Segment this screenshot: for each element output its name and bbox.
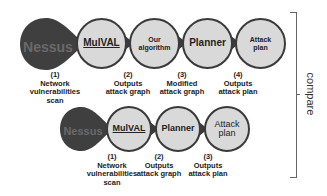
node-label-line: plan	[214, 129, 239, 138]
node-our-algorithm: Our algorithm	[129, 18, 180, 69]
node-planner: Planner	[182, 18, 233, 69]
svg-text:Nessus: Nessus	[63, 125, 102, 137]
caption-step-2: (2) Outputs attack graph	[98, 71, 158, 97]
caption-line: attack plan	[178, 170, 238, 179]
compare-bracket	[290, 12, 297, 178]
node-mulval: MulVAL	[106, 106, 152, 152]
compare-label: compare	[305, 69, 317, 119]
svg-text:Nessus: Nessus	[23, 39, 73, 55]
caption-step-3: (3) Outputs attack plan	[178, 153, 238, 179]
node-attack-plan: Attack plan	[204, 106, 250, 152]
node-label: Planner	[161, 124, 194, 133]
caption-line: attack graph	[98, 88, 158, 97]
node-label-line: plan	[250, 44, 271, 51]
caption-step-4: (4) Outputs attack plan	[208, 71, 268, 97]
caption-line: scan	[82, 179, 142, 188]
node-attack-plan: Attack plan	[235, 18, 286, 69]
node-label-line: algorithm	[139, 44, 171, 51]
bracket-midpoint	[296, 94, 300, 95]
caption-line: attack plan	[208, 88, 268, 97]
node-mulval: MulVAL	[76, 18, 127, 69]
caption-line: attack graph	[152, 88, 212, 97]
caption-step-3: (3) Modified attack graph	[152, 71, 212, 97]
node-label: MulVAL	[83, 38, 119, 49]
node-label: MulVAL	[113, 124, 146, 133]
caption-step-1: (1) Network vulnerabilities scan	[25, 71, 85, 106]
node-label: Planner	[189, 38, 226, 49]
node-planner: Planner	[155, 106, 201, 152]
node-label-line: Attack	[250, 36, 271, 43]
node-label-line: Our	[139, 36, 171, 43]
